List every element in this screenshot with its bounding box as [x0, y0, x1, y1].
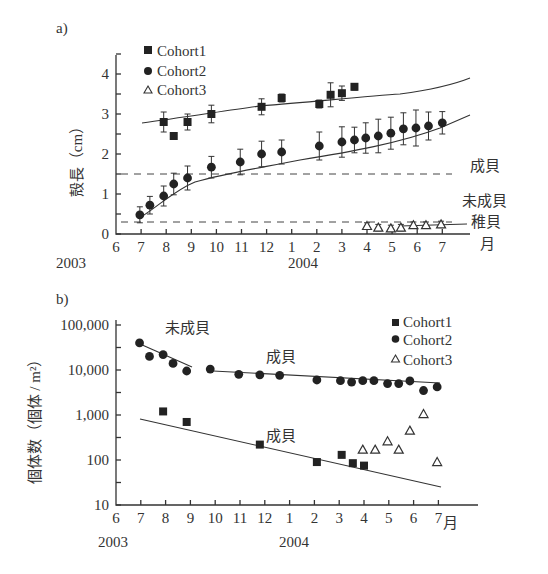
y-tick-label: 4: [102, 66, 110, 82]
y-tick-label: 1: [102, 186, 110, 202]
legend-triangle-icon: [144, 86, 152, 93]
data-point: [358, 445, 367, 453]
data-point: [419, 386, 428, 395]
legend-cohort1: Cohort1: [403, 314, 452, 330]
data-point: [313, 458, 321, 466]
data-point: [160, 118, 168, 126]
data-point: [383, 437, 392, 445]
year-2004-b: 2004: [279, 534, 310, 550]
legend-cohort3: Cohort3: [403, 352, 452, 368]
data-point: [405, 426, 414, 434]
x-tick-label: 7: [137, 510, 145, 526]
data-point: [207, 110, 215, 118]
data-point: [255, 370, 264, 379]
panel-a-ylabel: 殻長（cm）: [69, 119, 85, 197]
x-tick-label: 12: [259, 239, 274, 255]
data-point: [315, 100, 323, 108]
data-point: [256, 441, 264, 449]
panel-b-label: b): [56, 291, 69, 308]
annotation-subadult: 未成貝: [462, 193, 507, 209]
x-tick-label: 10: [209, 239, 224, 255]
data-point: [207, 163, 216, 172]
data-point: [169, 359, 178, 368]
x-tick-label: 6: [112, 510, 120, 526]
legend-cohort3: Cohort3: [157, 82, 206, 98]
series-cohort2: [135, 339, 441, 395]
legend-cohort1: Cohort1: [157, 43, 206, 59]
x-tick-label: 11: [234, 239, 248, 255]
x-tick-label: 7: [435, 510, 443, 526]
x-tick-label: 1: [286, 510, 294, 526]
annotation-subadult-b: 未成貝: [165, 320, 210, 336]
data-point: [371, 445, 380, 453]
legend-circle-icon: [392, 335, 400, 343]
legend-cohort2: Cohort2: [157, 63, 206, 79]
panel-b-legend: Cohort1 Cohort2 Cohort3: [392, 314, 453, 368]
data-point: [135, 339, 144, 348]
y-tick-label: 10,000: [68, 362, 109, 378]
x-tick-label: 4: [363, 239, 371, 255]
panel-a-label: a): [56, 20, 68, 37]
data-point: [159, 350, 168, 359]
data-point: [370, 376, 379, 385]
data-point: [183, 418, 191, 426]
figure: a) Cohort1 Cohort2 Cohort3 殻長（cm） 678910…: [0, 0, 548, 574]
data-point: [433, 383, 442, 392]
y-tick-label: 10: [94, 497, 109, 513]
data-point: [386, 129, 395, 138]
y-tick-label: 100: [87, 452, 110, 468]
data-point: [363, 222, 372, 230]
data-point: [349, 459, 357, 467]
data-point: [315, 142, 324, 151]
legend-square-icon: [392, 319, 399, 326]
x-tick-label: 7: [137, 239, 145, 255]
data-point: [424, 122, 433, 131]
panel-a-legend: Cohort1 Cohort2 Cohort3: [144, 43, 206, 98]
month-label-b: 月: [443, 515, 458, 531]
data-point: [182, 367, 191, 376]
data-point: [145, 201, 154, 210]
data-point: [383, 379, 392, 388]
data-point: [278, 94, 286, 102]
data-point: [360, 462, 368, 470]
series-cohort3: [358, 410, 441, 466]
y-tick-label: 0: [102, 226, 110, 242]
data-point: [350, 136, 359, 145]
x-tick-label: 4: [360, 510, 368, 526]
annotation-adult-b1: 成貝: [266, 349, 296, 365]
data-point: [358, 376, 367, 385]
x-tick-label: 8: [162, 510, 170, 526]
legend-triangle-icon: [392, 355, 400, 362]
data-point: [312, 376, 321, 385]
x-tick-label: 8: [162, 239, 170, 255]
x-tick-label: 5: [385, 510, 393, 526]
data-point: [184, 118, 192, 126]
data-point: [394, 379, 403, 388]
x-tick-label: 1: [288, 239, 296, 255]
data-point: [419, 410, 428, 418]
data-point: [170, 132, 178, 140]
data-point: [159, 192, 168, 201]
data-point: [386, 224, 395, 232]
data-point: [145, 352, 154, 361]
series-cohort1: [159, 407, 368, 469]
y-tick-label: 2: [102, 146, 110, 162]
x-tick-label: 11: [233, 510, 247, 526]
panel-a: a) Cohort1 Cohort2 Cohort3 殻長（cm） 678910…: [56, 20, 507, 271]
data-point: [338, 138, 347, 147]
data-point: [135, 210, 144, 219]
data-point: [234, 370, 243, 379]
year-2003-a: 2003: [56, 255, 86, 271]
data-point: [438, 118, 447, 127]
data-point: [394, 445, 403, 453]
data-point: [347, 378, 356, 387]
data-point: [374, 132, 383, 141]
data-point: [206, 365, 215, 374]
x-tick-label: 3: [335, 510, 343, 526]
data-point: [338, 89, 346, 97]
panel-b-ylabel: 個体数（個体 / m²）: [27, 352, 43, 485]
data-point: [350, 83, 358, 91]
panel-b: b) Cohort1 Cohort2 Cohort3 個体数（個体 / m²） …: [27, 291, 478, 550]
x-tick-label: 6: [410, 510, 418, 526]
data-point: [338, 451, 346, 459]
